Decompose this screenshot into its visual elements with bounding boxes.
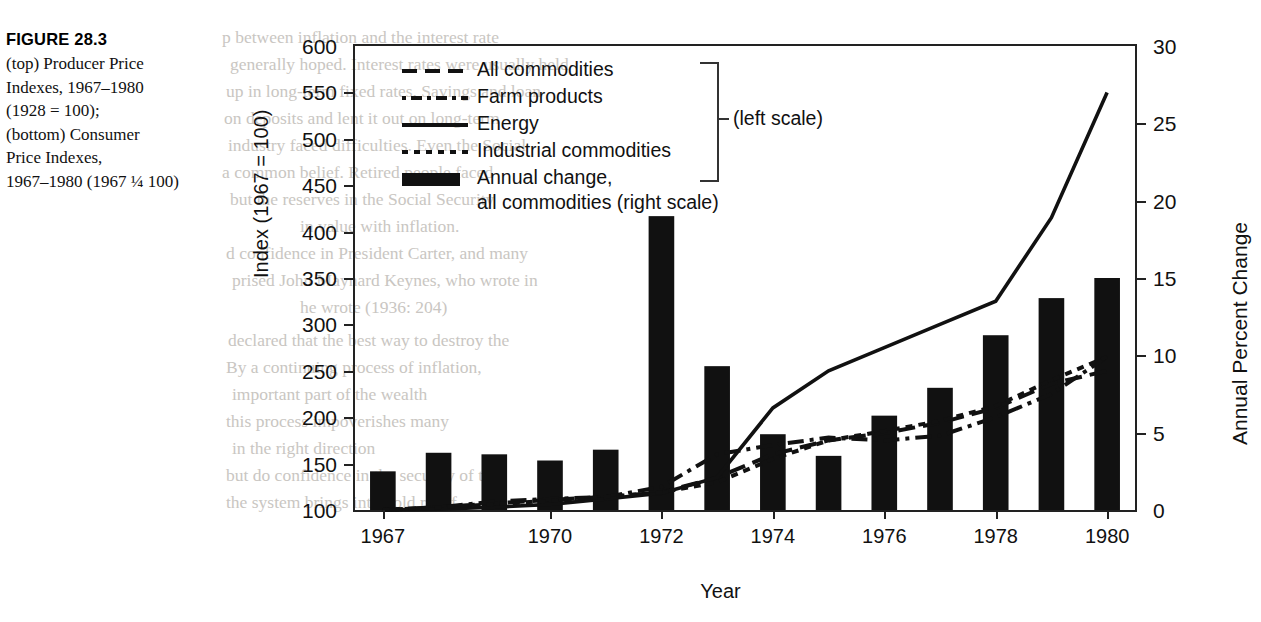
y-axis-left-tick xyxy=(344,139,355,141)
solid-line-key xyxy=(402,116,468,132)
y-axis-left-tick-label: 100 xyxy=(281,500,337,521)
caption-line: (1928 = 100); xyxy=(6,99,221,123)
caption-line: (top) Producer Price xyxy=(6,52,221,76)
legend-label: Energy xyxy=(477,113,539,134)
x-axis-tick xyxy=(1107,510,1109,519)
y-axis-left-tick xyxy=(344,278,355,280)
caption-line: (bottom) Consumer xyxy=(6,123,221,147)
y-axis-left-tick xyxy=(344,185,355,187)
dashed-line-key xyxy=(402,62,468,78)
y-axis-left-tick-label: 150 xyxy=(281,453,337,474)
y-axis-left-tick-label: 550 xyxy=(281,82,337,103)
x-axis-title: Year xyxy=(0,580,1261,603)
y-axis-left-tick xyxy=(344,417,355,419)
y-axis-left-tick xyxy=(344,324,355,326)
y-axis-right-tick-label: 5 xyxy=(1153,422,1209,443)
y-axis-left-title: Index (1967 = 100) xyxy=(250,110,273,278)
bar xyxy=(649,216,675,510)
legend-label: All commodities xyxy=(477,59,614,80)
y-axis-left-tick xyxy=(344,232,355,234)
x-axis-tick xyxy=(661,510,663,519)
x-axis-tick xyxy=(884,510,886,519)
y-axis-left-tick-label: 450 xyxy=(281,175,337,196)
y-axis-left-tick-label: 350 xyxy=(281,268,337,289)
x-axis-title-text: Year xyxy=(700,580,740,602)
legend-item-all-commodities[interactable]: All commodities xyxy=(402,56,719,83)
x-axis-tick xyxy=(773,510,775,519)
y-axis-right-tick xyxy=(1135,278,1146,280)
y-axis-left-tick xyxy=(344,464,355,466)
bar xyxy=(1039,298,1065,510)
figure-caption: FIGURE 28.3 (top) Producer Price Indexes… xyxy=(6,30,221,193)
legend-item-annual-change[interactable]: Annual change, xyxy=(402,164,719,191)
legend-item-industrial-commodities[interactable]: Industrial commodities xyxy=(402,137,719,164)
x-axis-tick-label: 1967 xyxy=(361,526,406,546)
bar xyxy=(983,335,1009,510)
y-axis-right-tick-label: 30 xyxy=(1153,36,1209,57)
y-axis-left-tick xyxy=(344,92,355,94)
legend-item-energy[interactable]: Energy xyxy=(402,110,719,137)
y-axis-right-tick-label: 20 xyxy=(1153,190,1209,211)
legend-label: Farm products xyxy=(477,86,603,107)
dash-dot-line-key xyxy=(402,89,468,105)
y-axis-right-title: Annual Percent Change xyxy=(1228,222,1252,445)
y-axis-right-tick xyxy=(1135,123,1146,125)
legend-label-continued: all commodities (right scale) xyxy=(477,191,719,213)
y-axis-right-tick-label: 15 xyxy=(1153,268,1209,289)
bar xyxy=(816,456,842,510)
y-axis-right-tick-label: 25 xyxy=(1153,113,1209,134)
figure-number: FIGURE 28.3 xyxy=(6,30,221,49)
y-axis-right-tick xyxy=(1135,201,1146,203)
x-axis-tick-label: 1980 xyxy=(1085,526,1130,546)
x-axis-tick-label: 1978 xyxy=(973,526,1018,546)
bar xyxy=(426,453,452,510)
x-axis-tick-label: 1972 xyxy=(639,526,684,546)
y-axis-left-tick-label: 600 xyxy=(281,36,337,57)
bar xyxy=(1094,278,1120,510)
y-axis-left-tick-label: 500 xyxy=(281,128,337,149)
x-axis-tick-label: 1970 xyxy=(528,526,573,546)
bar xyxy=(704,366,730,510)
y-axis-left-tick-label: 250 xyxy=(281,360,337,381)
bar xyxy=(927,388,953,510)
caption-line: 1967–1980 (1967 ¼ 100) xyxy=(6,170,221,194)
caption-line: Price Indexes, xyxy=(6,146,221,170)
x-axis-tick xyxy=(550,510,552,519)
y-axis-left-tick xyxy=(344,371,355,373)
y-axis-left-tick-label: 300 xyxy=(281,314,337,335)
legend-bracket xyxy=(700,62,719,182)
x-axis-tick xyxy=(996,510,998,519)
bar xyxy=(370,471,396,510)
y-axis-left-tick-label: 200 xyxy=(281,407,337,428)
chart-legend: All commodities Farm products Energy Ind… xyxy=(402,56,719,213)
dotted-line-key xyxy=(402,143,468,159)
x-axis-tick xyxy=(383,510,385,519)
y-axis-right-tick-label: 10 xyxy=(1153,345,1209,366)
y-axis-left-tick-label: 400 xyxy=(281,221,337,242)
x-axis-tick-label: 1976 xyxy=(862,526,907,546)
y-axis-right-tick xyxy=(1135,433,1146,435)
legend-label: Annual change, xyxy=(477,167,613,188)
left-scale-note: (left scale) xyxy=(733,107,823,130)
legend-bracket-stem xyxy=(717,118,729,120)
legend-item-farm-products[interactable]: Farm products xyxy=(402,83,719,110)
x-axis-tick-label: 1974 xyxy=(751,526,796,546)
y-axis-right-tick xyxy=(1135,355,1146,357)
caption-line: Indexes, 1967–1980 xyxy=(6,76,221,100)
y-axis-right-tick-label: 0 xyxy=(1153,500,1209,521)
legend-label: Industrial commodities xyxy=(477,140,671,161)
black-bar-key xyxy=(402,170,468,186)
